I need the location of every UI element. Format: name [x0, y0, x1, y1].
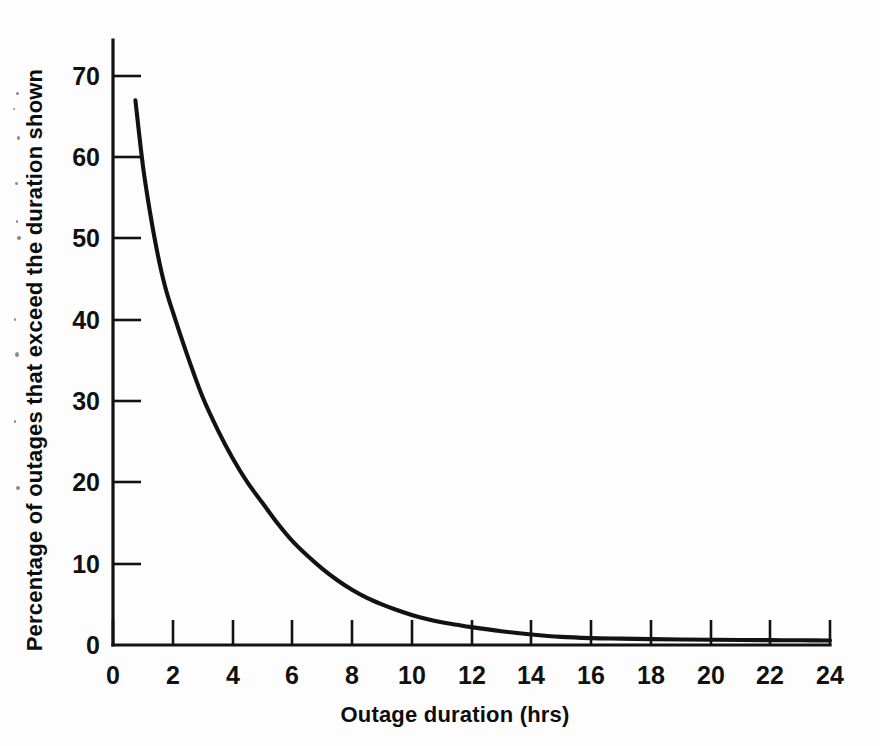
x-tick-label-6: 6: [285, 661, 299, 689]
figure-container: 70 60 50 40 30 20 10 0 0 2 4 6 8 10 12 1…: [0, 0, 880, 746]
x-tick-label-16: 16: [577, 661, 605, 689]
y-tick-label-40: 40: [72, 306, 100, 334]
x-tick-label-0: 0: [106, 661, 120, 689]
y-axis-ticks: [113, 76, 141, 564]
chart-plot-area: 70 60 50 40 30 20 10 0 0 2 4 6 8 10 12 1…: [0, 0, 880, 746]
y-tick-label-70: 70: [72, 62, 100, 90]
x-tick-label-12: 12: [458, 661, 486, 689]
x-tick-labels: 0 2 4 6 8 10 12 14 16 18 20 22 24: [106, 661, 844, 689]
x-tick-label-24: 24: [816, 661, 844, 689]
x-tick-label-8: 8: [345, 661, 359, 689]
y-tick-label-30: 30: [72, 387, 100, 415]
y-tick-label-20: 20: [72, 468, 100, 496]
y-tick-labels: 70 60 50 40 30 20 10 0: [72, 62, 100, 659]
x-tick-label-2: 2: [166, 661, 180, 689]
x-tick-label-4: 4: [226, 661, 240, 689]
y-axis-title: Percentage of outages that exceed the du…: [22, 69, 47, 652]
x-tick-label-18: 18: [637, 661, 665, 689]
y-tick-label-60: 60: [72, 143, 100, 171]
data-series-line: [135, 100, 830, 640]
y-tick-label-0: 0: [86, 631, 100, 659]
x-tick-label-14: 14: [517, 661, 545, 689]
x-axis-title: Outage duration (hrs): [340, 702, 569, 727]
x-tick-label-20: 20: [697, 661, 725, 689]
y-tick-label-10: 10: [72, 550, 100, 578]
x-tick-label-10: 10: [398, 661, 426, 689]
y-tick-label-50: 50: [72, 224, 100, 252]
x-tick-label-22: 22: [756, 661, 784, 689]
